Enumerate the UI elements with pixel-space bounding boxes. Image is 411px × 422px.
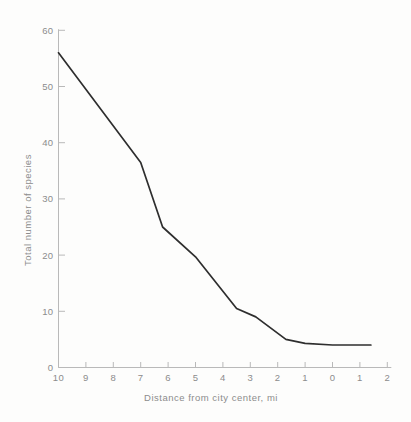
y-axis-title: Total number of species — [22, 154, 33, 266]
y-tick-label: 60 — [42, 25, 53, 36]
y-tick-label: 20 — [42, 250, 53, 261]
species-distance-chart: 010203040506010987654321012 Total number… — [0, 0, 411, 422]
y-tick-label: 40 — [42, 137, 53, 148]
data-line-total-species — [59, 53, 371, 345]
x-tick-label: 2 — [275, 372, 281, 383]
x-axis-title: Distance from city center, mi — [144, 392, 278, 403]
x-tick-label: 1 — [302, 372, 308, 383]
x-tick-label: 1 — [357, 372, 363, 383]
y-tick-label: 30 — [42, 193, 53, 204]
y-tick-label: 50 — [42, 81, 53, 92]
x-tick-label: 0 — [330, 372, 336, 383]
x-tick-label: 8 — [110, 372, 116, 383]
x-tick-label: 9 — [83, 372, 89, 383]
y-tick-label: 10 — [42, 306, 53, 317]
x-tick-label: 6 — [165, 372, 171, 383]
x-tick-label: 7 — [138, 372, 144, 383]
x-tick-label: 3 — [247, 372, 253, 383]
x-tick-label: 5 — [193, 372, 199, 383]
x-tick-label: 4 — [220, 372, 226, 383]
x-tick-label: 10 — [53, 372, 64, 383]
chart-svg: 010203040506010987654321012 — [0, 0, 411, 422]
x-tick-label: 2 — [384, 372, 390, 383]
